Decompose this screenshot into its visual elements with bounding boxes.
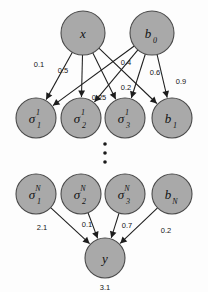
- node-sigma_1_1[interactable]: [16, 98, 56, 138]
- node-sigma_1_2[interactable]: [61, 98, 101, 138]
- node-superscript-sigma_1_1: 1: [36, 108, 40, 117]
- node-superscript-sigma_N_3: N: [123, 184, 130, 193]
- weight-label-b0-to-sigma_1_3: 0.2: [121, 83, 131, 92]
- node-sigma_1_3[interactable]: [105, 98, 145, 138]
- edge-x-to-sigma_1_1: [46, 52, 72, 99]
- node-label-b_1: b: [165, 111, 172, 126]
- weight-label-b0-to-sigma_1_1: 0.4: [121, 58, 131, 67]
- node-b_1[interactable]: [152, 98, 192, 138]
- node-b_N[interactable]: [152, 174, 192, 214]
- node-superscript-sigma_1_3: 1: [125, 108, 129, 117]
- node-b0[interactable]: [130, 11, 174, 55]
- node-label-sigma_1_3: σ: [118, 111, 125, 126]
- node-sigma_N_2[interactable]: [61, 174, 101, 214]
- edge-sigma_N_3-to-y-arrowhead: [110, 231, 116, 238]
- weight-label-b_N-to-y: 0.2: [161, 226, 171, 235]
- edge-x-to-sigma_1_2-arrowhead: [78, 90, 85, 97]
- vertical-ellipsis-dot-1: [103, 142, 107, 146]
- network-svg: xb0σ11σ12σ13b1σN1σN2σN3bNy 0.10.50.250.4…: [0, 0, 208, 292]
- edge-b0-to-sigma_1_3-arrowhead: [130, 91, 136, 98]
- edge-b0-to-sigma_1_1-arrowhead: [53, 99, 60, 106]
- node-subscript-sigma_N_2: 2: [82, 197, 86, 206]
- edge-x-to-b_1: [99, 48, 157, 103]
- node-subscript-sigma_1_3: 3: [125, 121, 130, 130]
- edge-b0-to-b_1-arrowhead: [162, 90, 169, 97]
- node-label-b_N: b: [165, 187, 172, 202]
- weight-label-x-to-sigma_1_2: 0.5: [58, 66, 68, 75]
- node-label-sigma_1_2: σ: [74, 111, 81, 126]
- node-superscript-sigma_1_2: 1: [81, 108, 85, 117]
- node-label-sigma_1_1: σ: [29, 111, 36, 126]
- node-sigma_N_1[interactable]: [16, 174, 56, 214]
- node-subscript-sigma_N_3: 3: [125, 197, 130, 206]
- edge-b0-to-sigma_1_3: [131, 54, 145, 98]
- node-sigma_N_3[interactable]: [105, 174, 145, 214]
- vertical-ellipsis-dot-3: [103, 160, 107, 164]
- weight-label-x-to-sigma_1_3: 0.25: [92, 93, 107, 102]
- node-subscript-b0: 0: [153, 36, 157, 45]
- node-subscript-sigma_1_1: 1: [37, 121, 41, 130]
- node-subscript-b_1: 1: [173, 121, 177, 130]
- node-subscript-b_N: N: [171, 197, 178, 206]
- ellipsis-group: [103, 142, 107, 164]
- weight-label-b0-to-sigma_1_2: 0.6: [150, 68, 160, 77]
- node-superscript-sigma_N_1: N: [34, 184, 41, 193]
- weight-label-sigma_N_2-to-y: 0.1: [82, 220, 92, 229]
- weight-label-b0-to-b_1: 0.9: [176, 77, 186, 86]
- node-subscript-sigma_1_2: 2: [82, 121, 86, 130]
- weight-label-sigma_N_3-to-y: 0.7: [122, 221, 132, 230]
- weight-label-sigma_N_1-to-y: 2.1: [37, 223, 47, 232]
- node-superscript-sigma_N_2: N: [79, 184, 86, 193]
- node-label-b0: b: [145, 26, 152, 41]
- node-subscript-sigma_N_1: 1: [37, 197, 41, 206]
- vertical-ellipsis-dot-2: [103, 151, 107, 155]
- node-label-y: y: [100, 251, 108, 266]
- node-label-x: x: [79, 26, 86, 41]
- output-value-label: 3.1: [100, 283, 110, 292]
- network-diagram: xb0σ11σ12σ13b1σN1σN2σN3bNy 0.10.50.250.4…: [0, 0, 208, 292]
- weight-label-x-to-sigma_1_1: 0.1: [34, 60, 44, 69]
